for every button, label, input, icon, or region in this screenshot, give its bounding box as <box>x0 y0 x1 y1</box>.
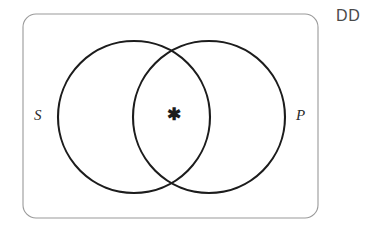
set-label-s: S <box>34 107 42 123</box>
venn-diagram-canvas: DD S P ✱ <box>0 0 384 228</box>
intersection-asterisk-marker: ✱ <box>167 105 181 124</box>
universe-label: DD <box>336 7 360 24</box>
venn-diagram-svg: DD S P ✱ <box>0 0 384 228</box>
set-label-p: P <box>295 107 305 123</box>
